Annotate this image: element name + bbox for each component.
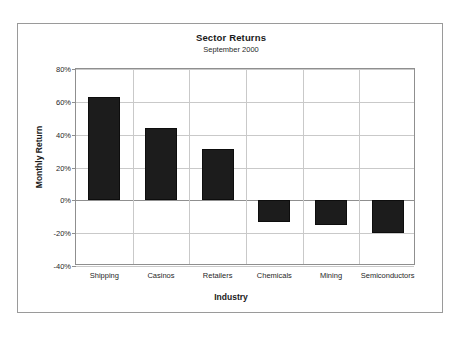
x-tick-label-mining: Mining (320, 271, 342, 280)
gridline-y--20 (76, 233, 414, 234)
y-tick-label: 20% (56, 163, 71, 172)
y-tick-mark (72, 102, 76, 103)
y-tick-label: 60% (56, 97, 71, 106)
gridline-y-0 (76, 200, 414, 201)
chart-subtitle: September 2000 (18, 45, 444, 54)
gridline-x-3 (246, 69, 247, 264)
x-tick-label-semiconductors: Semiconductors (361, 271, 415, 280)
chart-frame: Sector Returns September 2000 Monthly Re… (17, 23, 443, 313)
y-tick-label: -40% (53, 262, 71, 271)
x-tick-label-casinos: Casinos (147, 271, 174, 280)
x-tick-label-shipping: Shipping (90, 271, 119, 280)
y-tick-mark (72, 200, 76, 201)
bar-mining (315, 200, 347, 225)
chart-title: Sector Returns (18, 32, 444, 43)
x-tick-label-retailers: Retailers (203, 271, 233, 280)
gridline-y-60 (76, 102, 414, 103)
chart-screenshot: Sector Returns September 2000 Monthly Re… (0, 0, 458, 337)
y-tick-mark (72, 266, 76, 267)
y-tick-mark (72, 135, 76, 136)
bar-shipping (88, 97, 120, 200)
x-axis-title: Industry (18, 292, 444, 302)
gridline-x-1 (133, 69, 134, 264)
y-tick-mark (72, 233, 76, 234)
gridline-y--40 (76, 266, 414, 267)
y-tick-label: 80% (56, 65, 71, 74)
gridline-x-4 (303, 69, 304, 264)
bar-retailers (202, 149, 234, 200)
gridline-x-2 (189, 69, 190, 264)
plot-area: 80%60%40%20%0%-20%-40% ShippingCasinosRe… (75, 68, 415, 265)
gridline-y-20 (76, 168, 414, 169)
bar-semiconductors (372, 200, 404, 233)
gridline-x-5 (359, 69, 360, 264)
x-tick-label-chemicals: Chemicals (257, 271, 292, 280)
y-axis-title: Monthly Return (34, 107, 44, 207)
bar-casinos (145, 128, 177, 200)
y-tick-label: 40% (56, 130, 71, 139)
gridline-y-40 (76, 135, 414, 136)
y-tick-mark (72, 69, 76, 70)
y-tick-mark (72, 168, 76, 169)
y-tick-label: 0% (60, 196, 71, 205)
gridline-y-80 (76, 69, 414, 70)
bar-chemicals (258, 200, 290, 221)
y-tick-label: -20% (53, 229, 71, 238)
